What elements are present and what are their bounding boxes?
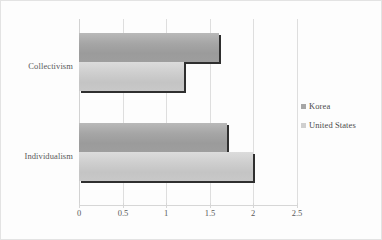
- category-label-individualism: Individualism: [3, 151, 73, 161]
- korea-swatch-icon: [301, 104, 306, 109]
- legend-label-united-states: United States: [309, 120, 356, 130]
- legend-label-korea: Korea: [309, 101, 330, 111]
- bar-row-individualism-korea: [79, 123, 297, 152]
- x-tick-2-5: 2.5: [282, 208, 312, 218]
- x-tick-0: 0: [64, 208, 94, 218]
- bar-group-collectivism: [79, 33, 297, 91]
- category-label-collectivism: Collectivism: [7, 61, 73, 71]
- bar-individualism-united-states[interactable]: [79, 152, 253, 181]
- gridline-2-5: [297, 19, 298, 205]
- bar-collectivism-united-states[interactable]: [79, 62, 184, 91]
- x-tick-2: 2: [238, 208, 268, 218]
- legend-item-korea[interactable]: Korea: [301, 101, 379, 111]
- x-tick-mark-1: [166, 203, 167, 208]
- x-tick-1-5: 1.5: [195, 208, 225, 218]
- chart-legend: Korea United States: [301, 101, 379, 139]
- x-tick-mark-1-5: [210, 203, 211, 208]
- x-tick-1: 1: [151, 208, 181, 218]
- x-tick-mark-2-5: [297, 203, 298, 208]
- x-axis-tick-labels: 0 0.5 1 1.5 2 2.5: [1, 208, 382, 224]
- x-tick-mark-2: [253, 203, 254, 208]
- bar-chart-figure: Collectivism Individualism 0 0.5 1 1.5 2…: [0, 0, 382, 240]
- bar-row-collectivism-korea: [79, 33, 297, 62]
- united-states-swatch-icon: [301, 123, 306, 128]
- legend-item-united-states[interactable]: United States: [301, 120, 379, 130]
- x-tick-0-5: 0.5: [108, 208, 138, 218]
- bar-collectivism-korea[interactable]: [79, 33, 219, 62]
- bar-individualism-korea[interactable]: [79, 123, 227, 152]
- plot-area: [79, 19, 297, 205]
- x-axis-line: [79, 205, 298, 206]
- bar-row-individualism-united-states: [79, 152, 297, 181]
- x-tick-mark-0: [79, 203, 80, 208]
- x-tick-mark-0-5: [123, 203, 124, 208]
- bar-row-collectivism-united-states: [79, 62, 297, 91]
- bar-group-individualism: [79, 123, 297, 181]
